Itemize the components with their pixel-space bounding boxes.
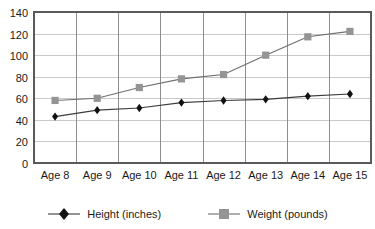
data-point-marker: [94, 95, 101, 102]
y-axis-tick-labels: 020406080100120140: [10, 7, 28, 170]
data-point-marker: [178, 98, 184, 106]
legend-label-height: Height (inches): [87, 208, 161, 220]
x-tick-label: Age 13: [248, 169, 283, 181]
chart-legend: Height (inches) Weight (pounds): [0, 198, 375, 229]
plot-area: 020406080100120140 Age 8Age 9Age 10Age 1…: [0, 0, 375, 196]
diamond-marker-icon: [47, 207, 81, 221]
x-tick-label: Age 12: [206, 169, 241, 181]
x-tick-label: Age 9: [83, 169, 112, 181]
y-tick-label: 100: [10, 50, 28, 62]
x-tick-label: Age 15: [333, 169, 368, 181]
y-tick-label: 60: [16, 93, 28, 105]
legend-entry-height: Height (inches): [47, 207, 161, 221]
x-axis-tick-labels: Age 8Age 9Age 10Age 11Age 12Age 13Age 14…: [41, 169, 368, 181]
x-tick-label: Age 14: [290, 169, 325, 181]
data-point-marker: [347, 90, 353, 98]
data-point-marker: [136, 84, 143, 91]
data-point-marker: [178, 75, 185, 82]
y-tick-label: 80: [16, 72, 28, 84]
y-tick-label: 120: [10, 29, 28, 41]
data-point-marker: [305, 92, 311, 100]
y-tick-label: 20: [16, 136, 28, 148]
x-tick-label: Age 11: [164, 169, 198, 181]
data-point-marker: [304, 33, 311, 40]
data-point-marker: [52, 112, 58, 120]
data-point-marker: [136, 104, 142, 112]
y-tick-label: 0: [22, 158, 28, 170]
y-tick-label: 140: [10, 7, 28, 19]
x-tick-label: Age 8: [41, 169, 70, 181]
chart-container: 020406080100120140 Age 8Age 9Age 10Age 1…: [0, 0, 375, 229]
data-point-marker: [221, 96, 227, 104]
data-point-marker: [262, 52, 269, 59]
y-tick-label: 40: [16, 115, 28, 127]
y-axis-gridlines: [34, 35, 371, 142]
data-point-marker: [220, 71, 227, 78]
legend-label-weight: Weight (pounds): [247, 208, 328, 220]
x-tick-label: Age 10: [122, 169, 157, 181]
data-point-marker: [94, 106, 100, 114]
series-height-inches: [52, 90, 353, 121]
chart-svg: 020406080100120140 Age 8Age 9Age 10Age 1…: [0, 0, 375, 196]
data-point-marker: [51, 97, 58, 104]
data-point-marker: [346, 28, 353, 35]
legend-entry-weight: Weight (pounds): [207, 207, 328, 221]
square-marker-icon: [207, 207, 241, 221]
data-point-marker: [263, 95, 269, 103]
